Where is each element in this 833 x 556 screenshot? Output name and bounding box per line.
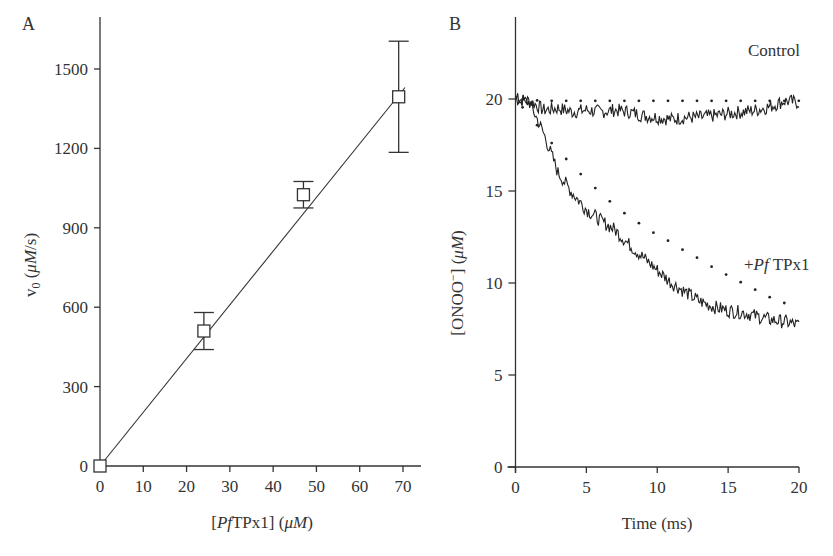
panel-b-y-axis-title: [ONOO−] (μM) [446,230,467,336]
pftpx1-simulation-dot [696,256,699,259]
control-simulation-dot [696,99,699,102]
control-simulation-dot [565,99,568,102]
panel-a-axes: 010203040506070030060090012001500 [54,17,421,496]
pftpx1-simulation-dot [667,239,670,242]
y-tick-label: 900 [63,219,89,238]
y-tick-label: 15 [486,182,503,201]
x-tick-label: 20 [791,478,808,497]
panel-b-letter: B [449,14,461,34]
control-simulation-dot [579,99,582,102]
panel-a-plot-area [94,41,409,472]
pftpx1-simulation-dot [739,281,742,284]
pftpx1-simulation-dot [565,158,568,161]
y-tick-label: 0 [80,457,89,476]
pftpx1-simulation-dot [550,142,553,145]
control-simulation-dot [623,99,626,102]
y-tick-label: 600 [63,298,89,317]
panel-a: A 010203040506070030060090012001500 [PfT… [21,14,421,532]
x-tick-label: 5 [582,478,591,497]
data-point-square [393,91,405,103]
pftpx1-simulation-dot [710,265,713,268]
control-simulation-dot [536,99,539,102]
y-tick-label: 0 [494,458,503,477]
control-simulation-dot [667,99,670,102]
control-series-label: Control [748,41,800,60]
x-tick-label: 0 [96,477,105,496]
pftpx1-simulation-dot [521,106,524,109]
pftpx1-simulation-dot [681,248,684,251]
control-simulation-dot [783,99,786,102]
panel-b: B 0510152005101520 Time (ms) [ONOO−] (μM… [446,14,810,533]
figure: A 010203040506070030060090012001500 [PfT… [0,0,833,556]
pftpx1-simulation-dot [608,200,611,203]
pftpx1-simulation-dot [725,273,728,276]
control-simulation-dot [725,99,728,102]
pftpx1-simulation-dot [768,296,771,299]
x-tick-label: 15 [720,478,737,497]
data-point-square [94,460,106,472]
linear-fit-line [100,88,405,466]
x-tick-label: 60 [351,477,368,496]
control-simulation-dot [739,99,742,102]
pftpx1-simulation-dot [594,187,597,190]
control-simulation-dot [594,99,597,102]
pftpx1-simulation-dot [783,302,786,305]
pftpx1-simulation-dot [536,124,539,127]
y-tick-label: 300 [63,378,89,397]
pftpx1-simulation-dot [638,222,641,225]
control-simulation-dot [768,99,771,102]
x-tick-label: 30 [221,477,238,496]
y-tick-label: 5 [494,366,503,385]
y-tick-label: 20 [486,90,503,109]
pftpx1-simulation-dot [623,212,626,215]
control-simulation-dot [608,99,611,102]
x-tick-label: 10 [135,477,152,496]
data-point-square [198,325,210,337]
y-tick-label: 1200 [54,139,88,158]
x-tick-label: 40 [265,477,282,496]
y-tick-label: 10 [486,274,503,293]
control-simulation-dot [681,99,684,102]
pftpx1-simulation-dot [652,231,655,234]
x-tick-label: 20 [178,477,195,496]
panel-a-y-axis-title: v0 (μM/s) [21,233,43,297]
x-tick-label: 70 [395,477,412,496]
y-tick-label: 1500 [54,60,88,79]
control-simulation-dot [638,99,641,102]
pftpx1-series-label: +Pf TPx1 [744,255,810,274]
control-simulation-dot [754,99,757,102]
pftpx1-simulation-dot [579,173,582,176]
x-tick-label: 50 [308,477,325,496]
pftpx1-trace [516,93,800,328]
control-trace [516,95,800,126]
x-tick-label: 0 [511,478,520,497]
panel-b-x-axis-title: Time (ms) [622,514,693,533]
control-simulation-dot [550,99,553,102]
panel-a-letter: A [22,14,35,34]
data-point-square [297,189,309,201]
control-simulation-dot [710,99,713,102]
x-tick-label: 10 [649,478,666,497]
control-simulation-dot [797,99,800,102]
control-simulation-dot [652,99,655,102]
panel-a-x-axis-title: [PfTPx1] (μM) [211,513,313,532]
panel-b-plot-area [516,93,801,328]
pftpx1-simulation-dot [754,288,757,291]
